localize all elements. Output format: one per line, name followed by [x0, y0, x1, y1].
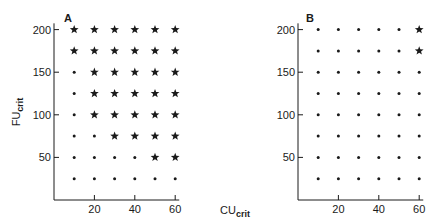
- star-marker: [171, 46, 180, 54]
- dot-marker: [377, 135, 380, 138]
- dot-marker: [73, 177, 76, 180]
- y-tick-label: 150: [277, 66, 295, 78]
- star-marker: [151, 25, 160, 33]
- star-marker: [130, 132, 139, 140]
- panel-b: 50100150200204060: [277, 23, 426, 215]
- scatter-chart-figure: 50100150200204060 50100150200204060 A B …: [0, 0, 441, 224]
- x-axis-title: CUcrit: [220, 204, 250, 219]
- dot-marker: [337, 71, 340, 74]
- dot-marker: [398, 135, 401, 138]
- dot-marker: [133, 177, 136, 180]
- star-marker: [151, 153, 160, 161]
- dot-marker: [337, 28, 340, 31]
- dot-marker: [357, 156, 360, 159]
- star-marker: [171, 110, 180, 118]
- star-marker: [151, 46, 160, 54]
- x-tick-label: 20: [88, 203, 100, 215]
- dot-marker: [377, 113, 380, 116]
- star-marker: [110, 68, 119, 76]
- y-tick-label: 100: [33, 109, 51, 121]
- svg-text:CUcrit: CUcrit: [220, 204, 250, 219]
- x-axis-title-main: CU: [220, 204, 236, 216]
- star-marker: [110, 46, 119, 54]
- dot-marker: [418, 177, 421, 180]
- y-tick-label: 150: [33, 66, 51, 78]
- star-marker: [130, 68, 139, 76]
- dot-marker: [73, 135, 76, 138]
- dot-marker: [357, 49, 360, 52]
- dot-marker: [357, 113, 360, 116]
- dot-marker: [418, 113, 421, 116]
- star-marker: [90, 110, 99, 118]
- dot-marker: [317, 135, 320, 138]
- dot-marker: [398, 156, 401, 159]
- star-marker: [171, 25, 180, 33]
- dot-marker: [317, 156, 320, 159]
- dot-marker: [93, 135, 96, 138]
- dot-marker: [337, 135, 340, 138]
- y-tick-label: 200: [277, 24, 295, 36]
- dot-marker: [398, 71, 401, 74]
- panel-a-label: A: [64, 12, 72, 24]
- dot-marker: [73, 92, 76, 95]
- dot-marker: [377, 156, 380, 159]
- dot-marker: [418, 92, 421, 95]
- star-marker: [171, 132, 180, 140]
- dot-marker: [357, 177, 360, 180]
- x-tick-label: 20: [332, 203, 344, 215]
- star-marker: [171, 68, 180, 76]
- star-marker: [151, 89, 160, 97]
- dot-marker: [357, 135, 360, 138]
- star-marker: [90, 68, 99, 76]
- dot-marker: [377, 49, 380, 52]
- dot-marker: [174, 177, 177, 180]
- star-marker: [171, 153, 180, 161]
- dot-marker: [317, 49, 320, 52]
- dot-marker: [337, 177, 340, 180]
- star-marker: [415, 46, 424, 54]
- star-marker: [151, 110, 160, 118]
- star-marker: [90, 46, 99, 54]
- star-marker: [110, 132, 119, 140]
- dot-marker: [398, 92, 401, 95]
- x-tick-label: 40: [129, 203, 141, 215]
- dot-marker: [377, 177, 380, 180]
- dot-marker: [113, 177, 116, 180]
- dot-marker: [377, 92, 380, 95]
- dot-marker: [317, 113, 320, 116]
- dot-marker: [357, 71, 360, 74]
- star-marker: [130, 46, 139, 54]
- dot-marker: [377, 28, 380, 31]
- svg-text:FUcrit: FUcrit: [10, 98, 25, 127]
- dot-marker: [357, 92, 360, 95]
- dot-marker: [317, 28, 320, 31]
- x-tick-label: 60: [413, 203, 425, 215]
- y-tick-label: 50: [283, 151, 295, 163]
- x-tick-label: 60: [169, 203, 181, 215]
- dot-marker: [73, 156, 76, 159]
- dot-marker: [357, 28, 360, 31]
- dot-marker: [154, 177, 157, 180]
- star-marker: [130, 110, 139, 118]
- y-tick-label: 50: [39, 151, 51, 163]
- dot-marker: [337, 113, 340, 116]
- dot-marker: [133, 156, 136, 159]
- y-axis-title-sub: crit: [15, 98, 25, 112]
- star-marker: [110, 110, 119, 118]
- star-marker: [90, 89, 99, 97]
- star-marker: [130, 89, 139, 97]
- dot-marker: [418, 156, 421, 159]
- star-marker: [151, 132, 160, 140]
- dot-marker: [73, 71, 76, 74]
- x-axis-title-sub: crit: [236, 209, 250, 219]
- dot-marker: [337, 156, 340, 159]
- dot-marker: [317, 71, 320, 74]
- star-marker: [151, 68, 160, 76]
- dot-marker: [398, 28, 401, 31]
- dot-marker: [93, 156, 96, 159]
- dot-marker: [398, 49, 401, 52]
- star-marker: [415, 25, 424, 33]
- dot-marker: [93, 177, 96, 180]
- star-marker: [70, 46, 79, 54]
- dot-marker: [337, 92, 340, 95]
